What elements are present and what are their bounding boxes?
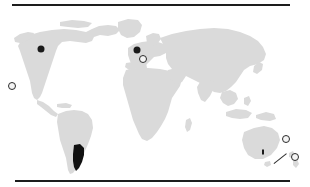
marker-southern-europe[interactable]: [139, 55, 147, 63]
land-highlight-southern-south-america: [73, 144, 84, 171]
land-new-guinea: [256, 112, 276, 121]
land-north-america: [18, 25, 120, 100]
world-map-figure: [0, 0, 310, 187]
top-rule-divider: [12, 4, 290, 6]
land-philippines: [244, 96, 251, 106]
land-canada-arctic-islands: [60, 20, 92, 28]
marker-new-zealand-south[interactable]: [291, 153, 299, 161]
marker-australia-southeast[interactable]: [262, 150, 264, 155]
land-southeast-asia: [220, 90, 238, 106]
map-canvas: [0, 8, 310, 178]
bottom-rule-divider: [15, 180, 290, 182]
land-greenland: [118, 19, 142, 38]
land-tasmania: [264, 161, 271, 167]
land-central-america: [37, 100, 58, 117]
marker-western-europe[interactable]: [134, 47, 141, 54]
land-australia: [242, 126, 280, 159]
land-madagascar: [185, 118, 192, 132]
land-indonesia: [226, 109, 252, 119]
land-india: [197, 80, 214, 102]
land-caribbean: [57, 103, 72, 108]
marker-pacific-west[interactable]: [8, 82, 16, 90]
marker-north-america-west[interactable]: [38, 46, 45, 53]
marker-new-zealand-north[interactable]: [282, 135, 290, 143]
